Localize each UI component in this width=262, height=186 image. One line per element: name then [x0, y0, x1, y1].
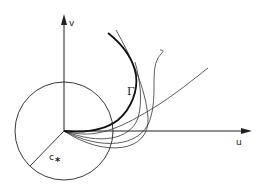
u-axis-label: u	[236, 137, 242, 147]
gamma-label: Γ	[127, 85, 135, 98]
radius-label: c	[49, 152, 54, 162]
v-axis-label: v	[69, 18, 75, 28]
u-axis-arrowhead-icon	[241, 128, 252, 134]
diagram-figure: v u Γ c *	[0, 0, 262, 186]
v-axis-arrowhead-icon	[61, 14, 67, 25]
radius-subscript: *	[55, 156, 61, 167]
family-curve-2	[64, 50, 163, 143]
